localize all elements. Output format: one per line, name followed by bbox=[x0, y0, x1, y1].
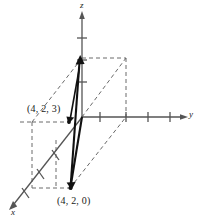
point-label-lower: (4, 2, 0) bbox=[57, 196, 90, 206]
vector-xy-point-to-space-point bbox=[71, 62, 80, 188]
y-axis-label: y bbox=[189, 110, 193, 119]
z-axis-label: z bbox=[80, 1, 84, 10]
vector-lower-arrowhead bbox=[67, 182, 76, 190]
z-axis-arrowhead bbox=[79, 11, 85, 19]
coordinate-figure: z y x (4, 2, 3) (4, 2, 0) bbox=[0, 0, 202, 223]
y-axis-arrowhead bbox=[180, 114, 188, 120]
dashed-diagonal-upper bbox=[82, 58, 126, 117]
point-marker-upper bbox=[67, 120, 71, 124]
dashed-diagonal-baseline bbox=[70, 117, 126, 188]
x-axis-label: x bbox=[11, 208, 15, 217]
point-label-upper: (4, 2, 3) bbox=[27, 104, 60, 114]
